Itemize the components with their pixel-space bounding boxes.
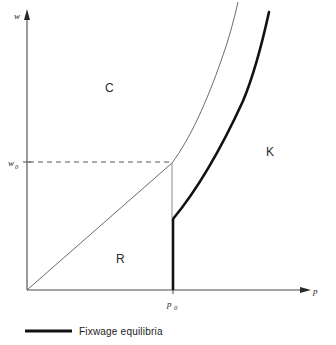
y-tick-label-w0: w — [8, 158, 14, 168]
region-label-k: K — [266, 145, 274, 159]
region-label-c: C — [105, 81, 114, 95]
x-axis-label: p — [312, 286, 318, 296]
x-tick-label-p0: p — [166, 299, 172, 309]
y-axis-label: w — [14, 11, 20, 21]
figure-background — [0, 0, 336, 345]
region-label-r: R — [116, 252, 125, 266]
legend-label-fixwage: Fixwage equilibria — [79, 326, 163, 337]
phase-diagram: w p w 0 p 0 C K R Fixwage equilibria — [0, 0, 336, 345]
